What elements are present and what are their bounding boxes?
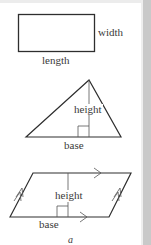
rectangle-length-label: length: [42, 54, 70, 66]
parallelogram-height-label: height: [55, 189, 83, 201]
rectangle-outline: [19, 15, 95, 52]
parallelogram-shape: height base: [10, 168, 131, 230]
rectangle-shape: width length: [19, 15, 124, 67]
parallelogram-right-angle-marker: [57, 206, 68, 217]
rectangle-width-label: width: [98, 26, 124, 38]
triangle-right-angle-marker: [78, 126, 89, 137]
triangle-shape: height base: [26, 80, 121, 151]
parallelogram-base-label: base: [39, 218, 59, 230]
geometry-figure: width length height base height base a: [0, 0, 151, 245]
figure-caption: a: [68, 234, 73, 245]
triangle-base-label: base: [64, 139, 84, 151]
triangle-height-label: height: [74, 103, 102, 115]
